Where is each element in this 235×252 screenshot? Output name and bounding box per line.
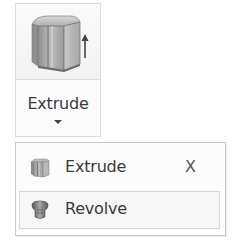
revolve-icon: [29, 199, 51, 221]
extrude-split-button: Extrude: [15, 3, 101, 137]
extrude-command-panel: Extrude Extrude X: [0, 0, 235, 252]
extrude-icon: [29, 157, 51, 179]
menu-item-label: Extrude: [65, 157, 126, 176]
extrude-dropdown-toggle[interactable]: Extrude: [16, 80, 100, 136]
extrude-button-label: Extrude: [16, 94, 100, 113]
extrude-icon: [26, 12, 90, 74]
chevron-down-icon: [54, 120, 62, 124]
menu-item-shortcut: X: [185, 157, 196, 176]
menu-item-extrude[interactable]: Extrude X: [19, 149, 220, 187]
menu-item-label: Revolve: [65, 199, 127, 218]
extrude-button-main[interactable]: [16, 4, 100, 80]
extrude-dropdown-menu: Extrude X Revolve: [15, 142, 226, 236]
menu-item-revolve[interactable]: Revolve: [19, 191, 220, 229]
